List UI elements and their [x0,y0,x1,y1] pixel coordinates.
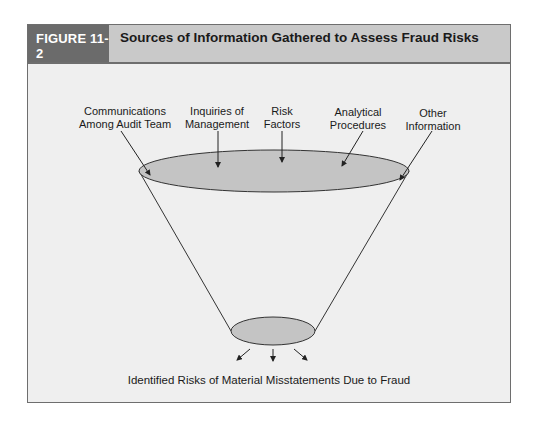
input-label: Analytical Procedures [330,106,386,132]
input-label-line: Other [405,107,460,120]
input-label: Inquiries of Management [185,105,249,131]
output-label: Identified Risks of Material Misstatemen… [128,374,411,386]
input-label: Communications Among Audit Team [79,105,171,131]
input-label-line: Analytical [330,106,386,119]
input-label-line: Inquiries of [185,105,249,118]
input-label-line: Among Audit Team [79,118,171,131]
arrow-icon [294,349,307,360]
arrow-icon [237,349,250,360]
input-label: Risk Factors [264,105,301,131]
input-label-line: Management [185,118,249,131]
input-label-line: Communications [79,105,171,118]
input-label-line: Information [405,120,460,133]
funnel-diagram [28,25,512,404]
funnel-top-ellipse [139,150,409,192]
input-label-line: Risk [264,105,301,118]
input-label-line: Factors [264,118,301,131]
arrow-icon [121,131,150,175]
funnel-right-side [315,171,409,331]
arrow-icon [400,131,432,180]
funnel-bottom-ellipse [231,317,315,345]
input-label-line: Procedures [330,119,386,132]
input-label: Other Information [405,107,460,133]
funnel-left-side [139,171,231,331]
figure-box: FIGURE 11-2 Sources of Information Gathe… [27,24,511,403]
